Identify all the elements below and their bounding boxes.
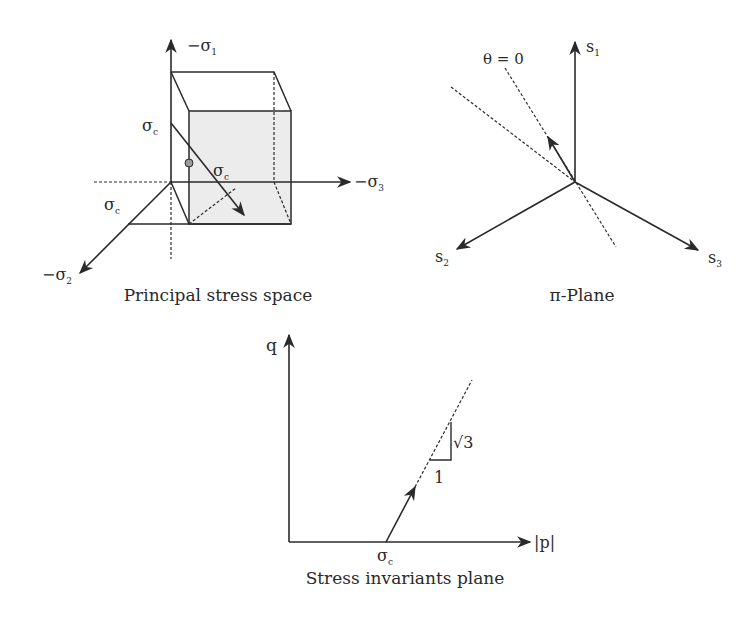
diagram-canvas: −σ1 −σ3 −σ2 σc σc σc Principal stress sp…	[0, 0, 753, 624]
deviatoric-arrow	[548, 137, 575, 182]
pi-plane-panel: θ = 0 s1 s2 s3 π-Plane	[435, 37, 722, 305]
stress-invariants-panel: q |p| √3 1 σc Stress invariants plane	[266, 335, 555, 588]
cube-front-face	[189, 111, 291, 224]
s2-label: s2	[435, 247, 449, 268]
cube-top-face	[171, 72, 291, 111]
s3-label: s3	[708, 248, 722, 269]
axis1-label: −σ1	[187, 36, 217, 57]
sigma-c-left-label: σc	[104, 195, 120, 216]
cube-bottom-left-edge	[171, 182, 189, 224]
axis-s3	[575, 182, 698, 250]
sigma-c-vertical-label: σc	[142, 116, 158, 137]
pi-plane-caption: π-Plane	[550, 285, 615, 305]
axis-sigma2	[80, 182, 171, 273]
theta-label: θ = 0	[483, 50, 524, 68]
slope-triangle	[430, 422, 451, 460]
axis2-label: −σ2	[42, 265, 72, 286]
invariants-caption: Stress invariants plane	[306, 568, 505, 588]
slope-rise-label: √3	[453, 433, 473, 452]
principal-caption: Principal stress space	[124, 285, 313, 305]
slope-run-label: 1	[434, 468, 444, 487]
q-axis-label: q	[266, 335, 277, 355]
principal-stress-space-panel: −σ1 −σ3 −σ2 σc σc σc Principal stress sp…	[42, 36, 384, 305]
axis3-label: −σ3	[354, 172, 384, 193]
stress-point-marker	[185, 159, 193, 167]
p-axis-label: |p|	[534, 533, 555, 552]
meridian-dashed-line	[451, 87, 575, 182]
axis-s2	[457, 182, 575, 249]
loading-arrow	[386, 487, 415, 542]
sigma-c-origin-label: σc	[377, 546, 393, 567]
s1-label: s1	[586, 37, 600, 58]
cube-top-left-edge	[171, 72, 189, 111]
